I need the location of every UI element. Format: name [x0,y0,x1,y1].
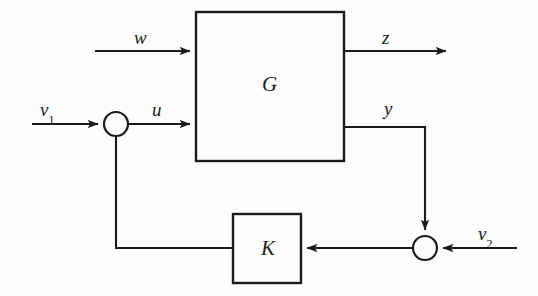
signal-label-u: u [152,100,162,119]
signal-label-w: w [134,28,147,47]
signal-label-u-text: u [152,99,162,120]
signal-label-v1: v1 [40,100,54,123]
signal-label-w-text: w [134,27,147,48]
signal-label-v1-subscript: 1 [48,113,54,127]
plant-block-label: G [262,74,277,95]
controller-block-label: K [261,238,275,259]
output-summing-junction [413,236,437,260]
input-summing-junction [104,112,128,136]
signal-label-z-text: z [382,27,389,48]
signal-label-y-text: y [384,98,392,119]
signal-label-v2: v2 [478,224,492,247]
signal-label-y: y [384,99,392,118]
block-diagram-figure: G K w z v1 u y v2 [0,0,538,296]
signal-label-v2-subscript: 2 [486,237,492,251]
signal-label-z: z [382,28,389,47]
